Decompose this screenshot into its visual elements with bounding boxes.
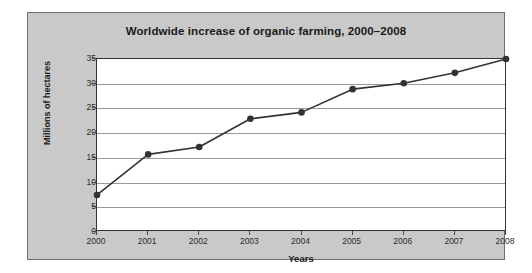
x-axis-tick-label: 2006 xyxy=(383,237,423,246)
series-polyline xyxy=(97,59,506,195)
data-point-marker xyxy=(452,70,459,77)
x-axis-tick-label: 2007 xyxy=(434,237,474,246)
x-axis-tick-label: 2005 xyxy=(332,237,372,246)
data-point-marker xyxy=(94,192,101,199)
line-series-organic-farmland xyxy=(97,59,507,232)
x-axis-label: Years xyxy=(96,253,506,264)
chart-panel: Worldwide increase of organic farming, 2… xyxy=(27,12,505,260)
data-point-marker xyxy=(298,109,305,116)
chart-figure: Worldwide increase of organic farming, 2… xyxy=(0,0,532,273)
x-axis-tick-label: 2003 xyxy=(229,237,269,246)
x-axis-tick-mark xyxy=(147,231,148,235)
plot-area xyxy=(96,58,506,231)
x-axis-tick-mark xyxy=(454,231,455,235)
x-axis-tick-mark xyxy=(301,231,302,235)
x-axis-tick-mark xyxy=(352,231,353,235)
x-axis-tick-label: 2001 xyxy=(127,237,167,246)
x-axis-tick-mark xyxy=(96,231,97,235)
x-axis-tick-mark xyxy=(403,231,404,235)
x-axis-tick-label: 2008 xyxy=(485,237,525,246)
x-axis-tick-mark xyxy=(249,231,250,235)
data-point-marker xyxy=(196,144,203,151)
data-point-marker xyxy=(247,116,254,123)
chart-title: Worldwide increase of organic farming, 2… xyxy=(28,25,504,37)
data-point-marker xyxy=(400,80,407,87)
x-axis-tick-label: 2004 xyxy=(281,237,321,246)
x-axis-tick-label: 2002 xyxy=(178,237,218,246)
data-point-marker xyxy=(145,151,152,158)
x-axis-tick-label: 2000 xyxy=(76,237,116,246)
x-axis-tick-mark xyxy=(505,231,506,235)
x-axis-tick-mark xyxy=(198,231,199,235)
data-point-marker xyxy=(503,56,510,63)
y-axis-label: Millions of hectares xyxy=(42,33,52,173)
series-markers xyxy=(94,56,510,199)
x-axis-tick-labels: 200020012002200320042005200620072008 xyxy=(96,237,506,251)
data-point-marker xyxy=(349,86,356,93)
